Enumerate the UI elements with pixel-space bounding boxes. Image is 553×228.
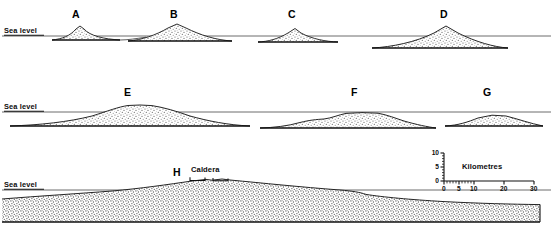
volcano-profiles-figure: Sea level Sea level Sea level A B C D E … — [0, 0, 553, 228]
sea-level-label-underlines — [0, 0, 553, 228]
